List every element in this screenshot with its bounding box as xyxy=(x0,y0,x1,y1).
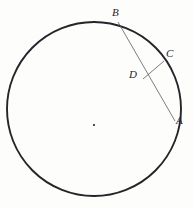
circle-center-dot xyxy=(93,124,95,126)
figure-canvas xyxy=(0,0,193,208)
circle-outline xyxy=(7,22,181,196)
vertex-label-c: C xyxy=(166,48,173,59)
vertex-label-d: D xyxy=(129,69,137,80)
chord-ab-line xyxy=(118,22,175,121)
vertex-label-b: B xyxy=(112,7,119,18)
vertex-label-a: A xyxy=(176,115,183,126)
segment-dc-line xyxy=(143,61,164,79)
geometry-figure: B C D A xyxy=(0,0,193,208)
